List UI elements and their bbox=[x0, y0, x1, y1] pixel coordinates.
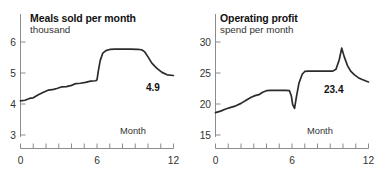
chart-title: Meals sold per month bbox=[30, 13, 136, 24]
y-tick-label: 3 bbox=[10, 130, 16, 141]
x-tick-labels: 0 6 12 bbox=[213, 155, 375, 166]
chart-panel-meals-sold: 6 5 4 3 bbox=[0, 0, 191, 181]
chart-panel-operating-profit: 30 25 20 15 bbox=[191, 0, 382, 181]
y-tick-label: 6 bbox=[10, 37, 16, 48]
x-axis-caption: Month bbox=[120, 126, 146, 136]
x-tick-labels: 0 6 12 bbox=[18, 155, 180, 166]
y-tick-label: 25 bbox=[200, 68, 212, 79]
x-tick-label: 6 bbox=[289, 155, 295, 166]
end-value-label: 4.9 bbox=[146, 82, 160, 93]
x-tick-label: 12 bbox=[168, 155, 180, 166]
y-tick-label: 4 bbox=[10, 99, 16, 110]
y-tick-labels: 30 25 20 15 bbox=[200, 37, 212, 141]
y-tick-label: 20 bbox=[200, 99, 212, 110]
meals-sold-chart-svg: 6 5 4 3 bbox=[0, 0, 191, 181]
x-tick-marks bbox=[216, 144, 369, 149]
x-tick-label: 6 bbox=[94, 155, 100, 166]
figure-root: 6 5 4 3 bbox=[0, 0, 382, 181]
x-tick-label: 12 bbox=[363, 155, 375, 166]
y-tick-marks bbox=[216, 42, 221, 135]
chart-subtitle: spend per month bbox=[220, 24, 294, 35]
y-tick-label: 5 bbox=[10, 68, 16, 79]
data-line-operating-profit bbox=[216, 48, 369, 112]
y-tick-label: 30 bbox=[200, 37, 212, 48]
chart-title: Operating profit bbox=[220, 13, 298, 24]
data-line-meals-sold bbox=[21, 49, 174, 101]
end-value-label: 23.4 bbox=[324, 84, 343, 95]
y-tick-label: 15 bbox=[200, 130, 212, 141]
x-tick-marks bbox=[21, 144, 174, 149]
y-tick-labels: 6 5 4 3 bbox=[10, 37, 16, 141]
chart-subtitle: thousand bbox=[30, 24, 70, 35]
x-axis-caption: Month bbox=[307, 126, 333, 136]
x-tick-label: 0 bbox=[18, 155, 24, 166]
x-tick-label: 0 bbox=[213, 155, 219, 166]
y-tick-marks bbox=[21, 42, 26, 135]
